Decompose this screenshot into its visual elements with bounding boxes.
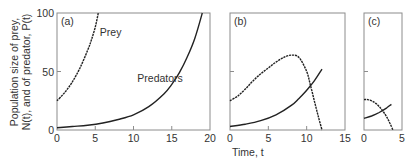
panel-b: 051015(b) bbox=[227, 13, 351, 144]
predators-line bbox=[364, 104, 391, 118]
x-tick-label: 0 bbox=[54, 132, 60, 144]
axes-frame bbox=[230, 13, 345, 130]
x-tick-label: 10 bbox=[301, 132, 313, 144]
prey-line bbox=[230, 55, 322, 130]
annotation-prey: Prey bbox=[100, 26, 122, 38]
panel-label: (b) bbox=[234, 15, 247, 27]
x-tick-label: 5 bbox=[399, 132, 405, 144]
y-axis-title-line2: N(t), and of predator, P(t) bbox=[20, 14, 32, 131]
y-tick-label: 100 bbox=[36, 7, 54, 19]
panel-c: 05(c) bbox=[361, 13, 405, 144]
predator-prey-chart: Population size of prey, N(t), and of pr… bbox=[0, 0, 414, 165]
panel-a: 05010005101520(a)PreyPredators bbox=[36, 7, 216, 144]
x-tick-label: 20 bbox=[204, 132, 216, 144]
x-tick-label: 5 bbox=[92, 132, 98, 144]
x-tick-label: 0 bbox=[361, 132, 367, 144]
x-tick-label: 5 bbox=[265, 132, 271, 144]
prey-line bbox=[364, 100, 393, 130]
y-axis-title-line1: Population size of prey, bbox=[8, 18, 20, 126]
panel-label: (a) bbox=[61, 15, 74, 27]
axes-frame bbox=[57, 13, 210, 130]
y-axis-title: Population size of prey, N(t), and of pr… bbox=[8, 14, 32, 131]
x-tick-label: 15 bbox=[339, 132, 351, 144]
x-tick-label: 0 bbox=[227, 132, 233, 144]
x-tick-label: 15 bbox=[166, 132, 178, 144]
y-tick-label: 50 bbox=[42, 66, 54, 78]
annotation-predators: Predators bbox=[137, 72, 183, 84]
panel-label: (c) bbox=[368, 15, 380, 27]
x-axis-title: Time, t bbox=[232, 146, 264, 158]
x-tick-label: 10 bbox=[128, 132, 140, 144]
